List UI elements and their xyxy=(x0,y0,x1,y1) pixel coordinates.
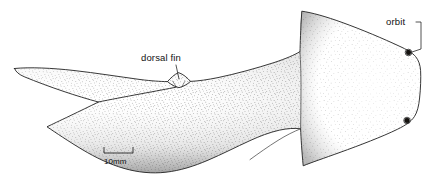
fossil-fish-figure: orbit dorsal fin 10mm xyxy=(0,0,436,179)
head-shield-stipple xyxy=(295,0,436,179)
scale-bar-label: 10mm xyxy=(104,157,127,166)
fish-illustration-svg: orbit dorsal fin 10mm xyxy=(0,0,436,179)
dorsal-fin-label: dorsal fin xyxy=(141,52,181,63)
fish-body-group xyxy=(0,0,436,179)
orbit-upper-icon xyxy=(406,50,411,55)
orbit-label: orbit xyxy=(386,16,405,27)
orbit-leader-line xyxy=(412,22,421,52)
orbit-lower-icon xyxy=(405,118,410,123)
